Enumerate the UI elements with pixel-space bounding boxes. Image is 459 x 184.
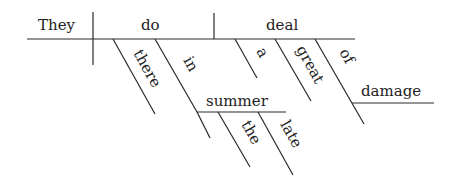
modifier-great: great	[293, 42, 328, 86]
sentence-diagram: They do deal there in summer the late a …	[0, 0, 459, 184]
verb-word: do	[141, 16, 160, 34]
modifier-late: late	[277, 117, 307, 151]
preposition-object-summer: summer	[206, 92, 269, 110]
preposition-of: of	[336, 45, 360, 68]
object-word: deal	[266, 16, 298, 34]
modifier-the: the	[238, 117, 266, 147]
modifier-a: a	[253, 44, 273, 61]
in-preposition-line-extension	[197, 112, 210, 138]
preposition-object-damage: damage	[361, 82, 421, 100]
a-modifier-line	[235, 39, 257, 78]
subject-word: They	[38, 16, 76, 34]
adverb-there: there	[130, 46, 165, 90]
preposition-in: in	[180, 53, 203, 75]
